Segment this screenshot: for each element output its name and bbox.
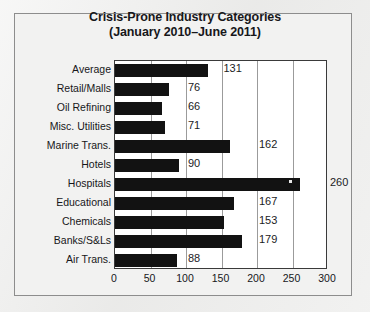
x-tick-label-100: 100 — [176, 272, 194, 284]
bar-value-label: 162 — [259, 137, 277, 152]
bar-row — [115, 213, 326, 232]
category-label-educational: Educational — [56, 193, 111, 212]
bar-row — [115, 99, 326, 118]
category-label-air-trans: Air Trans. — [66, 250, 111, 269]
plot-area — [114, 60, 327, 269]
bar-banks-s-ls — [115, 235, 242, 248]
bar-hotels — [115, 159, 179, 172]
x-tick-label-300: 300 — [318, 272, 336, 284]
bar-row — [115, 61, 326, 80]
bar-chemicals — [115, 216, 224, 229]
category-label-hotels: Hotels — [81, 155, 111, 174]
x-tick-label-0: 0 — [111, 272, 117, 284]
bar-value-label: 167 — [259, 194, 277, 209]
category-label-misc-utilities: Misc. Utilities — [50, 117, 111, 136]
bar-value-label: 71 — [188, 118, 200, 133]
category-label-hospitals: Hospitals — [68, 174, 111, 193]
bar-misc-utilities — [115, 121, 165, 134]
bar-value-label: 131 — [224, 61, 242, 76]
bar-row — [115, 80, 326, 99]
bar-hospitals — [115, 178, 300, 191]
bar-row — [115, 232, 326, 251]
category-label-marine-trans: Marine Trans. — [47, 136, 111, 155]
bar-educational — [115, 197, 234, 210]
x-tick-label-150: 150 — [212, 272, 230, 284]
bar-row — [115, 137, 326, 156]
bar-value-label: 90 — [188, 156, 200, 171]
category-label-oil-refining: Oil Refining — [57, 98, 111, 117]
x-tick-label-200: 200 — [247, 272, 265, 284]
scan-artifact — [289, 180, 292, 183]
bar-value-label: 153 — [259, 213, 277, 228]
bar-average — [115, 64, 208, 77]
x-tick-label-50: 50 — [144, 272, 156, 284]
bar-retail-malls — [115, 83, 169, 96]
bar-chart: 131Average76Retail/Malls66Oil Refining71… — [0, 0, 370, 312]
bar-marine-trans — [115, 140, 230, 153]
bar-value-label: 179 — [259, 232, 277, 247]
category-label-retail-malls: Retail/Malls — [57, 79, 111, 98]
bar-row — [115, 175, 326, 194]
bar-oil-refining — [115, 102, 162, 115]
x-tick-label-250: 250 — [283, 272, 301, 284]
bar-row — [115, 251, 326, 270]
bar-row — [115, 118, 326, 137]
category-label-chemicals: Chemicals — [62, 212, 111, 231]
bar-value-label: 88 — [188, 251, 200, 266]
category-label-average: Average — [72, 60, 111, 79]
bar-value-label: 260 — [330, 175, 348, 190]
bar-value-label: 76 — [188, 80, 200, 95]
bar-value-label: 66 — [188, 99, 200, 114]
category-label-banks-s-ls: Banks/S&Ls — [54, 231, 111, 250]
bar-air-trans — [115, 254, 177, 267]
bar-row — [115, 194, 326, 213]
bar-row — [115, 156, 326, 175]
